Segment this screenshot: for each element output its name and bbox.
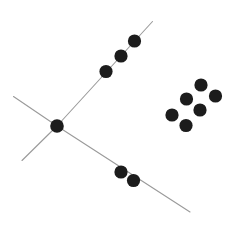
- figure-background: [0, 0, 240, 235]
- cluster-dot-2: [209, 89, 222, 102]
- cluster-dot-6: [179, 119, 192, 132]
- lower-line-dot-2: [127, 174, 140, 187]
- upper-line-dot-1: [99, 65, 112, 78]
- cluster-dot-4: [193, 103, 206, 116]
- figure-canvas: [0, 0, 240, 235]
- upper-line-dot-2: [114, 49, 127, 62]
- lower-line-dot-1: [114, 165, 127, 178]
- cluster-dot-5: [165, 108, 178, 121]
- upper-line-dot-3: [128, 34, 141, 47]
- figure-svg: [0, 0, 240, 235]
- cluster-dot-3: [180, 92, 193, 105]
- center-junction-dot: [50, 119, 64, 133]
- cluster-dot-1: [194, 78, 207, 91]
